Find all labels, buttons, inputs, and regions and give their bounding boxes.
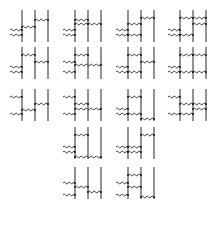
wavy-rung <box>128 34 141 36</box>
external-wavy-line <box>10 66 22 68</box>
feynman-diagram <box>114 87 160 121</box>
wavy-rung <box>128 23 141 25</box>
wavy-rung <box>128 71 141 73</box>
external-wavy-line <box>63 194 75 196</box>
wavy-rung <box>193 108 206 110</box>
wavy-rung <box>193 23 206 25</box>
wavy-rung <box>128 186 141 188</box>
wavy-rung <box>193 103 206 105</box>
external-wavy-line <box>63 71 75 73</box>
external-wavy-line <box>168 96 180 98</box>
wavy-rung <box>128 54 141 56</box>
wavy-rung <box>35 103 48 105</box>
wavy-rung <box>75 19 88 21</box>
external-wavy-line <box>116 29 128 31</box>
external-wavy-line <box>63 34 75 36</box>
feynman-diagram <box>61 87 107 121</box>
wavy-rung <box>22 54 35 56</box>
external-wavy-line <box>63 151 75 153</box>
external-wavy-line <box>10 71 22 73</box>
external-wavy-line <box>168 113 180 115</box>
feynman-diagram <box>114 8 160 42</box>
feynman-diagram <box>166 45 212 79</box>
external-wavy-line <box>116 146 128 148</box>
feynman-diagram <box>61 165 107 199</box>
external-wavy-line <box>10 96 22 98</box>
wavy-rung <box>128 113 141 115</box>
external-wavy-line <box>168 34 180 36</box>
wavy-rung <box>180 71 193 73</box>
external-wavy-line <box>10 113 22 115</box>
wavy-rung <box>75 134 88 136</box>
wavy-rung <box>75 186 88 188</box>
external-wavy-line <box>116 66 128 68</box>
feynman-diagram <box>8 87 54 121</box>
wavy-rung <box>88 23 101 25</box>
external-wavy-line <box>10 34 22 36</box>
external-wavy-line <box>116 151 128 153</box>
wavy-rung <box>128 174 141 176</box>
external-wavy-line <box>116 34 128 36</box>
external-wavy-line <box>63 113 75 115</box>
wavy-rung <box>22 109 35 111</box>
wavy-rung <box>128 96 141 98</box>
external-wavy-line <box>63 182 75 184</box>
external-wavy-line <box>10 29 22 31</box>
wavy-rung <box>180 103 193 105</box>
external-wavy-line <box>63 61 75 63</box>
wavy-rung <box>193 71 206 73</box>
wavy-rung <box>75 23 88 25</box>
external-wavy-line <box>116 182 128 184</box>
wavy-rung <box>180 113 193 115</box>
wavy-rung <box>75 103 88 105</box>
wavy-rung <box>141 196 154 198</box>
wavy-rung <box>180 17 193 19</box>
wavy-rung <box>141 118 154 120</box>
wavy-rung <box>35 61 48 63</box>
wavy-rung <box>22 26 35 28</box>
external-wavy-line <box>168 66 180 68</box>
external-wavy-line <box>63 96 75 98</box>
wavy-rung <box>88 191 101 193</box>
wavy-rung <box>75 54 88 56</box>
wavy-rung <box>141 134 154 136</box>
wavy-rung <box>193 54 206 56</box>
feynman-diagram <box>8 8 54 42</box>
wavy-rung <box>128 151 141 153</box>
feynman-diagram-grid <box>0 0 221 245</box>
feynman-diagram <box>114 125 160 159</box>
external-wavy-line <box>63 146 75 148</box>
feynman-diagram <box>61 45 107 79</box>
wavy-rung <box>193 17 206 19</box>
feynman-diagram <box>166 8 212 42</box>
wavy-rung <box>180 54 193 56</box>
wavy-rung <box>141 61 154 63</box>
external-wavy-line <box>168 71 180 73</box>
external-wavy-line <box>63 29 75 31</box>
external-wavy-line <box>116 108 128 110</box>
feynman-diagram <box>8 45 54 79</box>
external-wavy-line <box>116 71 128 73</box>
external-wavy-line <box>116 194 128 196</box>
external-wavy-line <box>168 29 180 31</box>
wavy-rung <box>128 146 141 148</box>
wavy-rung <box>180 34 193 36</box>
external-wavy-line <box>116 113 128 115</box>
feynman-diagram <box>61 8 107 42</box>
feynman-diagram <box>114 165 160 199</box>
wavy-rung <box>141 17 154 19</box>
feynman-diagram <box>166 87 212 121</box>
feynman-diagram <box>114 45 160 79</box>
wavy-rung <box>35 19 48 21</box>
feynman-diagram <box>61 125 107 159</box>
